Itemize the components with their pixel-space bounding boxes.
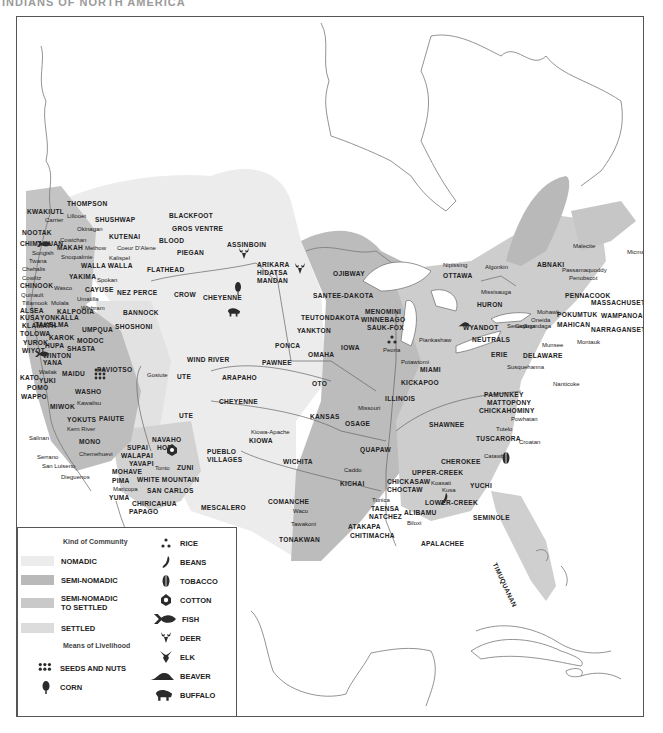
label-yavapi: YAVAPI: [129, 461, 154, 468]
label-caddo: Caddo: [344, 467, 362, 473]
label-snoqualmie: Snoqualmie: [61, 254, 93, 260]
label-chemehuevi: Chemehuevi: [79, 451, 113, 457]
swatch-nomadic: [21, 556, 54, 566]
label-penobscot: Penobscot: [569, 275, 597, 281]
label-ottawa: OTTAWA: [443, 273, 473, 280]
label-san-luiseno: San Luiseno: [42, 463, 75, 469]
legend-label: SEMI-NOMADIC: [61, 594, 118, 603]
legend-item-deer: DEER: [158, 631, 201, 645]
label-blackfoot: BLACKFOOT: [169, 213, 213, 220]
label-abnaki: ABNAKI: [537, 262, 564, 269]
label-oneida: Oneida: [531, 317, 550, 323]
label-waco: Waco: [293, 508, 308, 514]
legend-label: COTTON: [180, 596, 212, 605]
label-wailak: Wailak: [39, 369, 57, 375]
legend-label: BEAVER: [180, 672, 211, 681]
label-arapaho: ARAPAHO: [222, 375, 257, 382]
legend-item-seeds: SEEDS AND NUTS: [38, 661, 126, 675]
label-mohave: MOHAVE: [112, 469, 142, 476]
label-delaware: DELAWARE: [523, 353, 563, 360]
label-koasati: Koasati: [431, 480, 451, 486]
buffalo-icon: [154, 688, 174, 702]
legend-label: BEANS: [180, 558, 206, 567]
label-kutenai: KUTENAI: [109, 234, 140, 241]
label-mono: MONO: [79, 439, 101, 446]
label-passamaquoddy: Passamaquoddy: [562, 267, 607, 273]
label-kalispel: Kalispel: [109, 255, 130, 261]
label-twana: Twana: [29, 258, 47, 264]
legend-label: SEMI-NOMADIC: [61, 576, 118, 585]
label-quapaw: QUAPAW: [360, 447, 391, 454]
legend-item-semi-to-settled: SEMI-NOMADIC TO SETTLED: [21, 594, 118, 613]
legend-item-settled: SETTLED: [21, 623, 95, 633]
legend-label: ELK: [180, 653, 195, 662]
label-narraganset: NARRAGANSET: [591, 327, 644, 334]
legend-item-beans: BEANS: [158, 555, 206, 569]
label-kawailsu: Kawailsu: [77, 400, 101, 406]
label-oto: OTO: [312, 381, 327, 388]
label-pokumtuk: POKUMTUK: [557, 312, 598, 319]
label-yankton: YANKTON: [297, 328, 331, 335]
beans-icon: [158, 555, 174, 569]
label-massachusetts: MASSACHUSETTS: [591, 300, 644, 307]
legend-label: RICE: [180, 539, 198, 548]
label-natchez: NATCHEZ: [369, 514, 402, 521]
label-shushwap: SHUSHWAP: [95, 217, 136, 224]
elk-icon: [158, 650, 174, 664]
label-mescalero: MESCALERO: [201, 505, 246, 512]
label-seminole: SEMINOLE: [473, 515, 510, 522]
tobacco-icon: [499, 451, 513, 465]
deer-icon: [158, 631, 174, 645]
legend-livelihood-heading: Means of Livelihood: [63, 642, 130, 649]
label-molala: Molala: [51, 300, 69, 306]
label-supai: SUPAI: [127, 445, 148, 452]
beans-icon: [437, 492, 451, 506]
label-erie: ERIE: [491, 352, 508, 359]
legend-label: DEER: [180, 634, 201, 643]
label-mandan: MANDAN: [257, 278, 288, 285]
label-tonto: Tonto: [155, 465, 170, 471]
corn-icon: [38, 680, 54, 694]
label-washo: WASHO: [75, 389, 101, 396]
label-dieguenos: Dieguenos: [61, 474, 90, 480]
label-yakima: YAKIMA: [69, 274, 96, 281]
label-wasco: Wasco: [54, 285, 72, 291]
rice-icon: [158, 536, 174, 550]
label-cowichan: Cowichan: [60, 237, 86, 243]
label-onondaga: Onondaga: [523, 323, 551, 329]
label-modoc: MODOC: [77, 338, 104, 345]
cotton-icon: [158, 593, 174, 607]
label-miami: MIAMI: [420, 367, 441, 374]
label-ponca: PONCA: [275, 343, 300, 350]
label-omaha: OMAHA: [308, 352, 334, 359]
label-malecite: Malecite: [573, 243, 595, 249]
label-okinagan: Okinagan: [77, 226, 103, 232]
label-iowa: IOWA: [341, 345, 360, 352]
label-nez-perce: NEZ PERCE: [117, 290, 157, 297]
label-chinook: CHINOOK: [20, 283, 53, 290]
label-mahican: MAHICAN: [557, 322, 590, 329]
label-munsee: Munsee: [542, 342, 563, 348]
legend-item-tobacco: TOBACCO: [158, 574, 218, 588]
label-tunica: Tunica: [372, 497, 390, 503]
label-carrier: Carrier: [45, 217, 63, 223]
label-miwok: MIWOK: [50, 404, 75, 411]
legend-label: CORN: [60, 683, 82, 692]
label-umpqua: UMPQUA: [82, 327, 113, 334]
beaver-icon: [150, 669, 174, 683]
seeds-icon: [38, 661, 54, 675]
tobacco-icon: [158, 574, 174, 588]
label-neutrals: NEUTRALS: [472, 337, 510, 344]
label-wind-river: WIND RIVER: [187, 357, 230, 364]
label-chickahominy: CHICKAHOMINY: [479, 408, 535, 415]
swatch-settled: [21, 623, 54, 633]
label-piegan: PIEGAN: [177, 250, 204, 257]
label-potawtomi: Potawtomi: [401, 359, 429, 365]
label-biloxi: Biloxi: [407, 520, 421, 526]
label-peoria: Peoria: [383, 347, 400, 353]
legend-item-corn: CORN: [38, 680, 82, 694]
label-chitimacha: CHITIMACHA: [350, 533, 395, 540]
label-croatan: Croatan: [519, 439, 540, 445]
legend-label: FISH: [182, 615, 199, 624]
label-piankashaw: Piankashaw: [419, 337, 451, 343]
